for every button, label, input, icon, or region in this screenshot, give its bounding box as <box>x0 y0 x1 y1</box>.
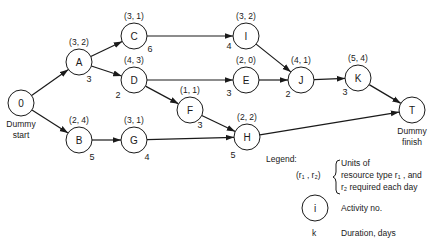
legend-duration-desc: Duration, days <box>341 228 396 238</box>
edge-0-B <box>32 110 68 133</box>
network-diagram: 0DummystartA(3, 2)3B(2, 4)5C(3, 1)6D(4, … <box>0 0 435 244</box>
nodes-layer: 0DummystartA(3, 2)3B(2, 4)5C(3, 1)6D(4, … <box>6 11 427 162</box>
legend-resource-notation: (r₁ , r₂) <box>296 170 321 180</box>
node-T: TDummyfinish <box>397 97 427 147</box>
node-caption: finish <box>402 137 422 147</box>
node-duration: 2 <box>285 89 290 99</box>
legend-resource-desc-2: resource type r₁ , and <box>341 170 422 180</box>
node-E: E(2, 0)3 <box>226 55 259 98</box>
node-duration: 5 <box>230 150 235 160</box>
node-caption: start <box>13 130 30 140</box>
edge-F-H <box>202 116 236 132</box>
node-K: K(5, 4)3 <box>342 53 371 97</box>
node-I: I(3, 2)4 <box>226 11 259 51</box>
node-label: H <box>243 132 250 143</box>
node-label: I <box>245 31 248 42</box>
legend-title: Legend: <box>266 154 297 164</box>
edge-D-F <box>145 86 178 104</box>
edge-J-K <box>314 78 345 79</box>
legend-node-icon: i <box>302 195 328 221</box>
node-resources: (4, 1) <box>291 55 311 65</box>
node-label: F <box>187 105 193 116</box>
legend-node-desc: Activity no. <box>341 203 382 213</box>
node-H: H(2, 2)5 <box>230 112 260 160</box>
node-label: J <box>299 75 304 86</box>
node-label: A <box>76 57 83 68</box>
edge-0-A <box>32 70 69 96</box>
edge-A-C <box>91 42 122 57</box>
legend-duration-symbol: k <box>312 228 317 238</box>
legend-resource-desc-3: r₂ required each day <box>341 182 418 192</box>
node-duration: 5 <box>89 152 94 162</box>
node-label: C <box>130 31 137 42</box>
node-resources: (3, 2) <box>69 37 89 47</box>
edge-I-J <box>256 44 291 72</box>
node-resources: (1, 1) <box>180 85 200 95</box>
node-duration: 6 <box>147 44 152 54</box>
node-A: A(3, 2)3 <box>66 37 92 84</box>
node-B: B(2, 4)5 <box>66 115 95 162</box>
node-label: 0 <box>18 98 24 109</box>
node-J: J(4, 1)2 <box>285 55 314 99</box>
node-duration: 2 <box>115 90 120 100</box>
node-resources: (3, 1) <box>124 115 144 125</box>
node-resources: (4, 3) <box>124 55 144 65</box>
legend-node-symbol: i <box>314 203 316 214</box>
node-label: T <box>409 105 415 116</box>
legend-resource-desc-1: Units of <box>341 158 370 168</box>
node-label: K <box>355 73 362 84</box>
node-duration: 3 <box>226 88 231 98</box>
edge-G-H <box>147 137 234 139</box>
node-F: F(1, 1)3 <box>177 85 203 130</box>
node-resources: (3, 1) <box>124 11 144 21</box>
node-0: 0Dummystart <box>6 90 36 140</box>
node-resources: (5, 4) <box>348 53 368 63</box>
node-resources: (2, 4) <box>69 115 89 125</box>
legend-brace-icon <box>333 160 340 194</box>
node-label: G <box>130 135 138 146</box>
node-caption: Dummy <box>6 119 36 129</box>
edge-K-T <box>369 85 401 104</box>
node-duration: 3 <box>342 87 347 97</box>
node-duration: 3 <box>86 74 91 84</box>
node-duration: 4 <box>226 41 231 51</box>
edge-H-T <box>260 112 399 135</box>
edge-A-D <box>91 66 121 76</box>
node-duration: 3 <box>197 120 202 130</box>
node-G: G(3, 1)4 <box>121 115 150 162</box>
node-resources: (2, 0) <box>236 55 256 65</box>
node-resources: (2, 2) <box>237 112 257 122</box>
node-label: D <box>130 75 137 86</box>
node-label: B <box>76 135 83 146</box>
node-resources: (3, 2) <box>236 11 256 21</box>
node-caption: Dummy <box>397 126 427 136</box>
node-C: C(3, 1)6 <box>121 11 153 54</box>
node-label: E <box>243 75 250 86</box>
legend: Legend: (r₁ , r₂) Units of resource type… <box>266 154 422 238</box>
node-duration: 4 <box>144 152 149 162</box>
node-D: D(4, 3)2 <box>115 55 147 100</box>
